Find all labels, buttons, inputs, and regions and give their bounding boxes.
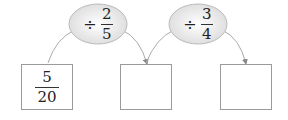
operation-1: ÷ 2 5 (69, 4, 127, 44)
denominator: 4 (202, 27, 212, 42)
numerator: 2 (102, 7, 112, 22)
start-fraction: 5 20 (35, 70, 59, 105)
answer-box-1[interactable] (120, 64, 172, 110)
operation-fraction: 3 4 (201, 7, 213, 42)
numerator: 3 (202, 7, 212, 22)
answer-box-2[interactable] (220, 64, 272, 110)
denominator: 20 (37, 90, 56, 105)
numerator: 5 (42, 70, 52, 85)
operation-fraction: 2 5 (101, 7, 113, 42)
divide-sign: ÷ (83, 15, 96, 34)
divide-sign: ÷ (183, 15, 196, 34)
denominator: 5 (102, 27, 112, 42)
start-box: 5 20 (21, 64, 73, 110)
operation-2: ÷ 3 4 (169, 4, 227, 44)
